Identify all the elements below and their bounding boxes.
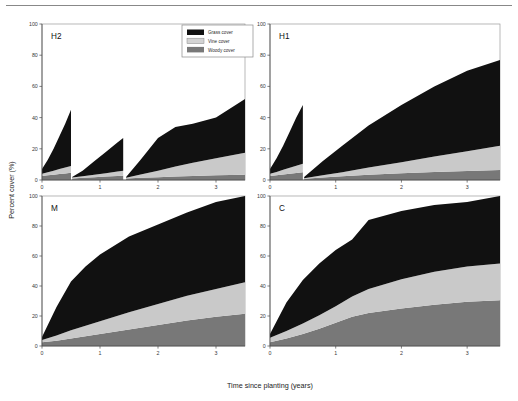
x-tick-label: 3 — [215, 350, 218, 356]
y-tick-label: 80 — [32, 223, 38, 229]
x-tick-label: 1 — [334, 184, 337, 190]
x-tick-label: 3 — [466, 350, 469, 356]
area-grass-seg0 — [42, 110, 71, 174]
y-tick-label: 0 — [263, 343, 266, 349]
y-tick-label: 80 — [260, 223, 266, 229]
figure-root: Percent cover (%) Time since planting (y… — [0, 0, 518, 401]
y-axis-title: Percent cover (%) — [7, 161, 16, 219]
y-tick-label: 40 — [260, 283, 266, 289]
x-tick-label: 1 — [334, 350, 337, 356]
y-tick-label: 80 — [260, 52, 266, 58]
x-tick-label: 2 — [400, 184, 403, 190]
panels-layer: 0204060801000123H20204060801000123H10204… — [29, 21, 500, 356]
legend-item-woody: Woody cover — [187, 47, 235, 53]
x-tick-label: 0 — [269, 350, 272, 356]
x-tick-label: 3 — [466, 184, 469, 190]
x-tick-label: 1 — [99, 184, 102, 190]
y-tick-label: 40 — [32, 115, 38, 121]
legend-item-vine: Vine cover — [187, 38, 230, 44]
x-tick-label: 2 — [400, 350, 403, 356]
area-grass-seg0 — [270, 105, 303, 174]
x-tick-label: 0 — [41, 184, 44, 190]
panel-label-C: C — [279, 204, 285, 213]
x-tick-label: 2 — [157, 184, 160, 190]
x-tick-label: 1 — [99, 350, 102, 356]
y-tick-label: 100 — [257, 21, 266, 27]
y-tick-label: 20 — [32, 146, 38, 152]
y-tick-label: 60 — [32, 253, 38, 259]
y-tick-label: 20 — [260, 313, 266, 319]
y-tick-label: 40 — [32, 283, 38, 289]
panel-C: 0204060801000123C — [257, 193, 500, 356]
panel-H1: 0204060801000123H1 — [257, 21, 500, 190]
area-grass-seg1 — [72, 138, 123, 178]
x-tick-label: 2 — [157, 350, 160, 356]
y-tick-label: 60 — [32, 83, 38, 89]
legend-label-grass: Grass cover — [208, 30, 233, 35]
y-tick-label: 0 — [263, 177, 266, 183]
y-tick-label: 20 — [32, 313, 38, 319]
y-tick-label: 40 — [260, 115, 266, 121]
legend-item-grass: Grass cover — [187, 30, 233, 36]
x-tick-label: 3 — [215, 184, 218, 190]
legend-label-woody: Woody cover — [208, 48, 235, 53]
legend-label-vine: Vine cover — [208, 39, 230, 44]
y-tick-label: 0 — [35, 177, 38, 183]
y-tick-label: 20 — [260, 146, 266, 152]
multi-panel-area-chart: Percent cover (%) Time since planting (y… — [0, 0, 518, 401]
y-tick-label: 80 — [32, 52, 38, 58]
panel-label-H1: H1 — [279, 32, 290, 41]
panel-label-H2: H2 — [51, 32, 62, 41]
x-tick-label: 0 — [41, 350, 44, 356]
y-tick-label: 60 — [260, 83, 266, 89]
panel-label-M: M — [51, 204, 58, 213]
y-tick-label: 100 — [257, 193, 266, 199]
y-tick-label: 100 — [29, 193, 38, 199]
y-tick-label: 0 — [35, 343, 38, 349]
y-tick-label: 60 — [260, 253, 266, 259]
y-tick-label: 100 — [29, 21, 38, 27]
legend-swatch-grass — [187, 30, 204, 36]
x-axis-title: Time since planting (years) — [227, 381, 313, 390]
chart-legend: Grass cover Vine cover Woody cover — [182, 25, 253, 57]
x-tick-label: 0 — [269, 184, 272, 190]
panel-M: 0204060801000123M — [29, 193, 245, 356]
legend-swatch-vine — [187, 38, 204, 44]
legend-swatch-woody — [187, 47, 204, 53]
